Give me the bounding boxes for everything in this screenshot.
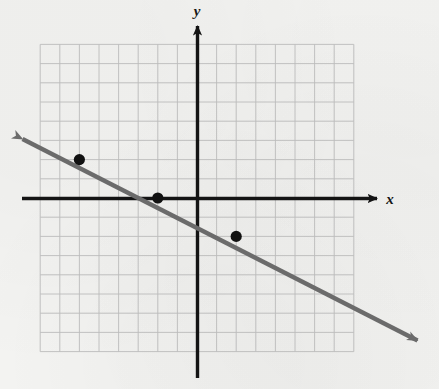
plotted-point bbox=[152, 192, 163, 203]
plotted-line bbox=[23, 139, 418, 341]
graph-figure: y x bbox=[0, 0, 439, 389]
x-axis-label: x bbox=[385, 191, 394, 207]
y-axis-label: y bbox=[192, 3, 201, 19]
axes bbox=[22, 26, 377, 378]
plotted-point bbox=[231, 231, 242, 242]
coordinate-plane: y x bbox=[0, 0, 439, 389]
plotted-point bbox=[74, 154, 85, 165]
